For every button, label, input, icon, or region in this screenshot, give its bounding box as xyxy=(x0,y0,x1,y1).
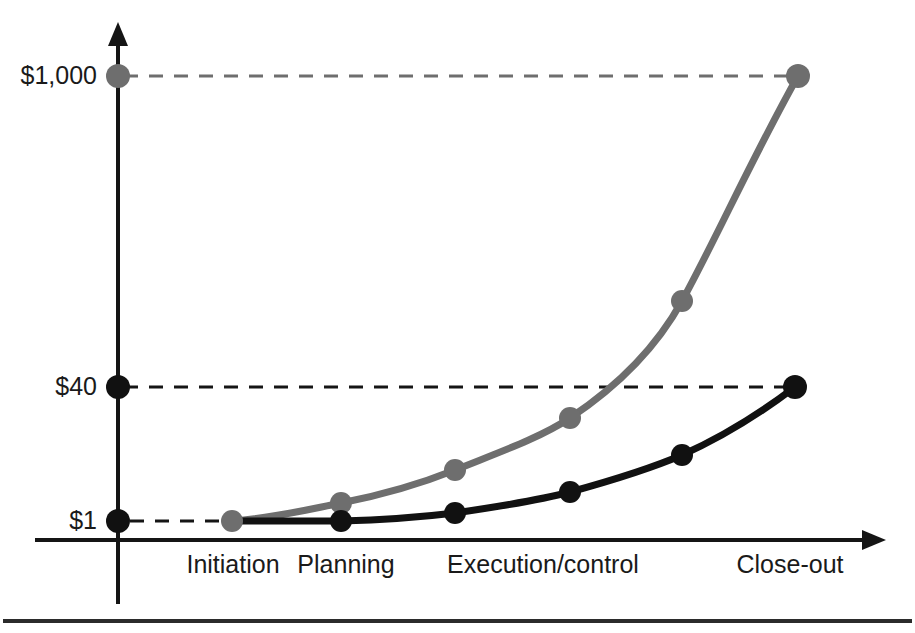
data-point-black-5 xyxy=(671,444,693,466)
y-tick-label-1000: $1,000 xyxy=(21,61,97,89)
y-tick-label-1: $1 xyxy=(69,506,97,534)
y-tick-label-40: $40 xyxy=(55,372,97,400)
data-point-gray-4 xyxy=(559,407,581,429)
data-point-black-3 xyxy=(444,502,466,524)
data-point-gray-5 xyxy=(671,290,693,312)
data-point-black-2 xyxy=(330,510,352,532)
chart-container: $1,000 $40 $1 Initiation Planning Execut… xyxy=(0,0,915,633)
up-arrow-icon xyxy=(108,22,128,46)
series-line-gray xyxy=(232,76,798,521)
data-point-gray-6 xyxy=(786,64,810,88)
x-tick-label-closeout: Close-out xyxy=(737,550,844,578)
data-point-gray-3 xyxy=(444,459,466,481)
series-line-black xyxy=(232,387,795,521)
cost-of-change-chart: $1,000 $40 $1 Initiation Planning Execut… xyxy=(0,0,915,633)
axis-marker-1 xyxy=(106,509,130,533)
data-point-black-6 xyxy=(783,375,807,399)
x-tick-label-initiation: Initiation xyxy=(186,550,279,578)
axis-marker-40 xyxy=(106,375,130,399)
x-tick-label-planning: Planning xyxy=(297,550,394,578)
x-tick-label-execution: Execution/control xyxy=(447,550,639,578)
right-arrow-icon xyxy=(862,530,886,550)
axis-marker-1000 xyxy=(106,64,130,88)
data-point-gray-1 xyxy=(221,510,243,532)
data-point-black-4 xyxy=(559,481,581,503)
